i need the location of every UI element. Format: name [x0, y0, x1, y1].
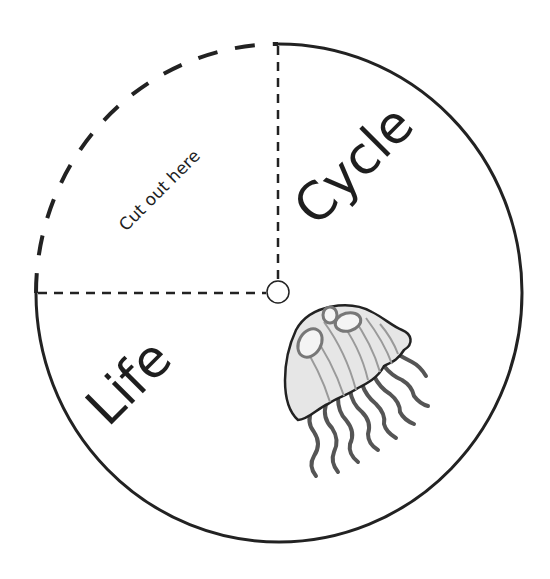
- word-life: Life: [74, 328, 183, 437]
- word-cycle: Cycle: [282, 94, 425, 237]
- life-cycle-wheel: Cut out here Cycle Life: [0, 0, 550, 579]
- cut-out-label: Cut out here: [115, 146, 204, 235]
- center-hole[interactable]: [267, 281, 289, 303]
- cut-dashed-outline[interactable]: [36, 44, 278, 293]
- jellyfish-icon: [285, 306, 428, 476]
